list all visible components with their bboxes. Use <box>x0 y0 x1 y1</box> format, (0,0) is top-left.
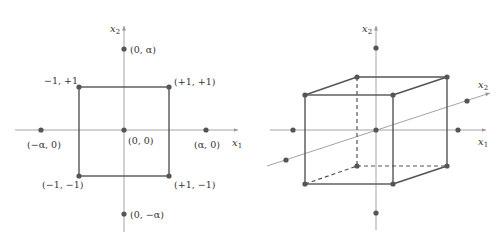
point-vertex <box>354 163 359 168</box>
point-axial-bottom <box>121 211 126 216</box>
point-vertex <box>390 92 395 97</box>
point-axial-3d <box>455 127 460 132</box>
label-axial-bottom: (0, −α) <box>130 209 164 220</box>
point-vertex <box>444 74 449 79</box>
label-axial-right: (α, 0) <box>194 139 220 150</box>
point-vertex <box>444 163 449 168</box>
label-corner-bl: (−1, −1) <box>42 179 83 190</box>
point-vertex <box>354 74 359 79</box>
label-axial-top: (0, α) <box>130 44 156 55</box>
point-corner-bl <box>76 173 81 178</box>
point-center <box>121 127 126 132</box>
cube-edge-hidden <box>305 166 357 184</box>
point-axial-3d <box>464 98 469 103</box>
point-center-3d <box>373 127 378 132</box>
right-diagram: x1 x2 x2 <box>267 23 490 230</box>
label-corner-br: (+1, −1) <box>174 179 215 190</box>
x3-axis-label-3d: x2 <box>478 79 488 92</box>
label-corner-tr: (+1, +1) <box>174 76 215 87</box>
cube-edge <box>393 166 447 184</box>
cube-edge <box>393 77 447 95</box>
x2-axis-label: x2 <box>110 23 120 36</box>
point-axial-3d <box>283 157 288 162</box>
point-corner-tr <box>166 84 171 89</box>
point-axial-left <box>38 127 43 132</box>
point-axial-right <box>203 127 208 132</box>
point-vertex <box>390 181 395 186</box>
x1-axis-label: x1 <box>232 137 242 150</box>
point-corner-br <box>166 173 171 178</box>
x2-axis-label-3d: x2 <box>362 23 372 36</box>
label-axial-left: (−α, 0) <box>27 139 61 150</box>
point-vertex <box>302 92 307 97</box>
point-axial-3d <box>373 210 378 215</box>
point-axial-top <box>121 46 126 51</box>
left-diagram: −1, +1 (+1, +1) (−1, −1) (+1, −1) (0, 0)… <box>15 23 242 232</box>
diagram-canvas: −1, +1 (+1, +1) (−1, −1) (+1, −1) (0, 0)… <box>0 0 503 243</box>
x1-axis-label-3d: x1 <box>478 136 488 149</box>
point-vertex <box>302 181 307 186</box>
point-axial-3d <box>290 127 295 132</box>
label-center: (0, 0) <box>128 135 154 146</box>
point-axial-3d <box>373 45 378 50</box>
label-corner-tl: −1, +1 <box>44 75 78 86</box>
cube-edge <box>305 77 357 95</box>
